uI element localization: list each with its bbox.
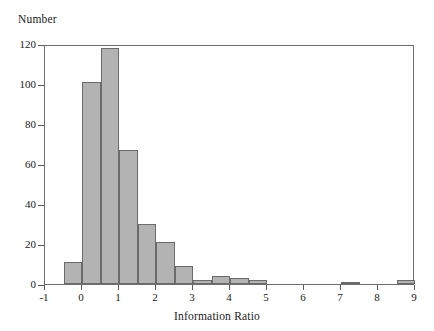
x-tick-label: 1 xyxy=(98,292,138,303)
histogram-bar xyxy=(101,48,120,284)
x-tick-mark xyxy=(414,285,415,290)
y-tick-label: 0 xyxy=(4,279,36,290)
y-tick-label: 20 xyxy=(4,239,36,250)
y-tick-label: 40 xyxy=(4,199,36,210)
x-tick-mark xyxy=(266,285,267,290)
histogram-bar xyxy=(193,280,212,284)
histogram-bars xyxy=(45,46,413,284)
x-tick-label: 3 xyxy=(172,292,212,303)
histogram-bar xyxy=(249,280,268,284)
x-tick-mark xyxy=(377,285,378,290)
y-tick-label: 60 xyxy=(4,159,36,170)
x-tick-mark xyxy=(155,285,156,290)
x-tick-label: 5 xyxy=(246,292,286,303)
x-tick-mark xyxy=(229,285,230,290)
x-tick-mark xyxy=(118,285,119,290)
histogram-bar xyxy=(397,280,416,284)
histogram-bar xyxy=(230,278,249,284)
y-tick-label: 80 xyxy=(4,119,36,130)
x-tick-label: 7 xyxy=(320,292,360,303)
y-tick-label: 100 xyxy=(4,79,36,90)
x-tick-label: 2 xyxy=(135,292,175,303)
y-tick-label: 120 xyxy=(4,39,36,50)
x-tick-label: 9 xyxy=(394,292,434,303)
plot-area xyxy=(44,45,414,285)
histogram-bar xyxy=(64,262,83,284)
histogram-bar xyxy=(212,276,231,284)
histogram-bar xyxy=(82,82,101,284)
x-tick-mark xyxy=(81,285,82,290)
x-tick-mark xyxy=(44,285,45,290)
histogram-bar xyxy=(175,266,194,284)
x-axis-title: Information Ratio xyxy=(0,310,434,322)
histogram-bar xyxy=(156,242,175,284)
histogram-chart: Number 020406080100120 -10123456789 Info… xyxy=(0,0,434,331)
x-tick-mark xyxy=(340,285,341,290)
x-tick-mark xyxy=(192,285,193,290)
histogram-bar xyxy=(341,282,360,284)
x-tick-label: 8 xyxy=(357,292,397,303)
histogram-bar xyxy=(119,150,138,284)
x-tick-label: 6 xyxy=(283,292,323,303)
x-tick-label: -1 xyxy=(24,292,64,303)
x-tick-label: 4 xyxy=(209,292,249,303)
x-tick-mark xyxy=(303,285,304,290)
y-axis-title: Number xyxy=(18,13,57,25)
x-tick-label: 0 xyxy=(61,292,101,303)
histogram-bar xyxy=(138,224,157,284)
